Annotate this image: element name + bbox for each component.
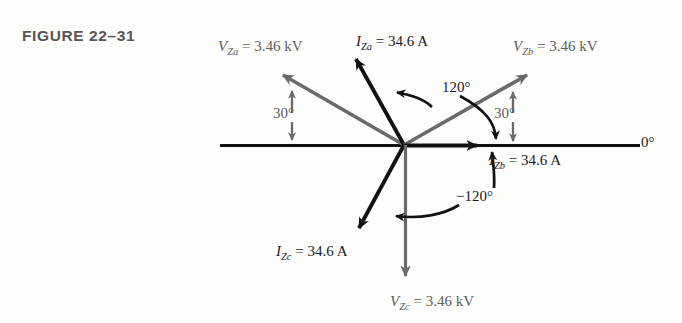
label-iza-value: = 34.6 A — [372, 33, 428, 49]
label-izb-value: = 34.6 A — [505, 152, 561, 168]
angle-label-120: 120° — [442, 79, 471, 96]
angle-label-30-left: 30° — [273, 105, 294, 122]
label-izb-subscript: Zb — [494, 160, 505, 171]
angle-label-neg120: −120° — [456, 188, 493, 205]
label-iza-subscript: Za — [361, 41, 372, 52]
label-vzb: VZb = 3.46 kV — [513, 38, 598, 57]
label-vzb-symbol: V — [513, 38, 522, 54]
label-izb: IZb = 34.6 A — [489, 152, 561, 171]
figure-container: FIGURE 22–31 — [0, 0, 682, 323]
label-vzc-subscript: Zc — [399, 301, 410, 312]
label-izc-value: = 34.6 A — [292, 243, 348, 259]
label-vzc: VZc = 3.46 kV — [390, 293, 474, 312]
label-vza: VZa = 3.46 kV — [218, 38, 303, 57]
label-vza-value: = 3.46 kV — [238, 38, 302, 54]
label-vza-subscript: Za — [227, 46, 238, 57]
axis-zero-label: 0° — [641, 134, 655, 151]
angle-arc-120-left — [397, 93, 432, 108]
label-izc: IZc = 34.6 A — [276, 243, 347, 262]
label-vzc-symbol: V — [390, 293, 399, 309]
label-vzb-subscript: Zb — [522, 46, 533, 57]
label-izc-subscript: Zc — [281, 251, 292, 262]
label-vza-symbol: V — [218, 38, 227, 54]
label-vzb-value: = 3.46 kV — [533, 38, 597, 54]
label-iza: IZa = 34.6 A — [356, 33, 428, 52]
angle-label-30-right: 30° — [494, 105, 515, 122]
label-vzc-value: = 3.46 kV — [410, 293, 474, 309]
